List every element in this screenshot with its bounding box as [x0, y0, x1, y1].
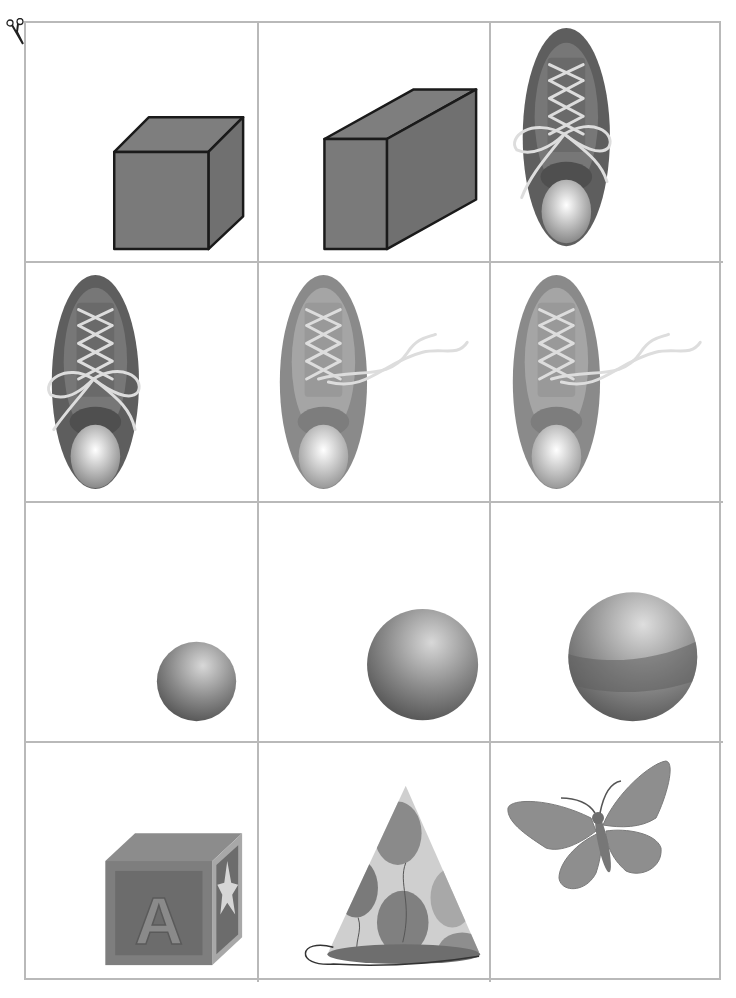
ball-medium-icon	[259, 503, 489, 741]
card-rectangular-prism[interactable]: rectangular prism	[259, 23, 491, 263]
card-cube[interactable]: small cube	[26, 23, 259, 263]
shoe-tied-icon	[26, 263, 257, 501]
card-shoe-tied[interactable]: tied shoe (dark)	[491, 23, 723, 263]
block-letter: A	[135, 883, 184, 958]
card-ball-small[interactable]: small ball	[26, 503, 259, 743]
card-letter-block[interactable]: letter block A A	[26, 743, 259, 982]
prism-illustration	[259, 23, 489, 261]
letter-block-icon: A	[26, 743, 257, 982]
cube-illustration	[26, 23, 257, 261]
shoe-tied-icon	[491, 23, 723, 261]
ball-small-icon	[26, 503, 257, 741]
card-ball-large-striped[interactable]: large striped ball	[491, 503, 723, 743]
shoe-untied-icon	[491, 263, 723, 501]
butterfly-icon	[491, 743, 723, 982]
scissors-icon	[6, 18, 24, 46]
card-ball-medium[interactable]: medium ball	[259, 503, 491, 743]
card-party-hat[interactable]: party hat	[259, 743, 491, 982]
shoe-untied-icon	[259, 263, 489, 501]
card-shoe-tied[interactable]: tied shoe (dark)	[26, 263, 259, 503]
picture-card-grid: small cube rectangular prism tied shoe (…	[24, 21, 721, 980]
card-shoe-untied[interactable]: untied shoe (light)	[491, 263, 723, 503]
card-butterfly[interactable]: butterfly	[491, 743, 723, 982]
party-hat-icon	[259, 743, 489, 982]
ball-striped-icon	[491, 503, 723, 741]
card-shoe-untied[interactable]: untied shoe (light)	[259, 263, 491, 503]
